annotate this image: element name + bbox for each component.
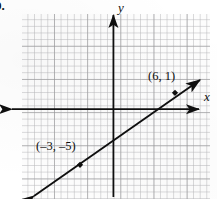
graph-vector-layer: [0, 0, 217, 199]
y-axis-label: y: [118, 1, 124, 14]
point-label-neg3-neg5: (–3, –5): [36, 140, 76, 153]
x-axis-label: x: [204, 90, 210, 103]
point-label-6-1: (6, 1): [148, 70, 175, 83]
plotted-line: [34, 80, 200, 196]
graph-figure: 9. (6, 1) (–3, –5) y x: [0, 0, 217, 199]
